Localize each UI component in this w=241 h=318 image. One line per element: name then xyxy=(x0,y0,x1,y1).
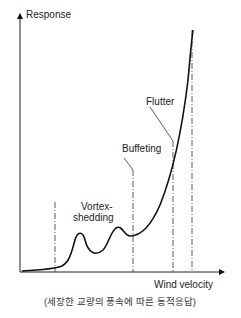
y-axis-label: Response xyxy=(26,9,71,20)
response-curve xyxy=(22,30,193,271)
flutter-leader xyxy=(150,107,173,141)
figure-caption: (세장한 교량의 풍속에 따른 동적응답) xyxy=(44,294,196,308)
response-diagram xyxy=(0,0,241,318)
x-axis-label: Wind velocity xyxy=(154,279,213,290)
flutter-label: Flutter xyxy=(146,96,174,107)
vortex-label-line2: shedding xyxy=(73,212,114,223)
vortex-label-line1: Vortex- xyxy=(81,201,113,212)
buffeting-leader xyxy=(124,158,133,170)
buffeting-label: Buffeting xyxy=(122,143,161,154)
